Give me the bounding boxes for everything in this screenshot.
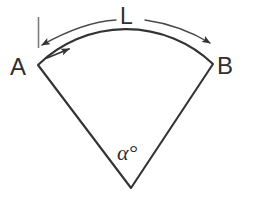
central-angle-label: α° [117,142,137,164]
arc-length-label: L [120,5,133,28]
point-label-a: A [10,55,26,79]
geometry-figure: A B L α° [0,0,254,198]
sector-diagram-canvas [0,0,254,198]
point-label-b: B [217,54,233,78]
